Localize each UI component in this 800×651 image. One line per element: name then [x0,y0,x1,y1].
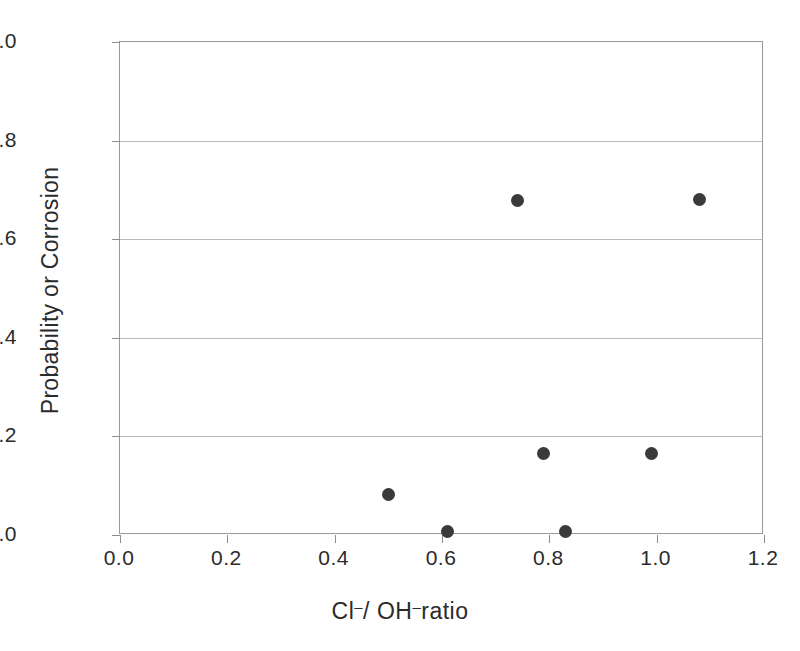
x-axis-tick-label: 0.6 [426,546,457,570]
x-axis-label-charge-1: – [354,598,363,615]
data-point [645,447,658,460]
y-axis-tick-label: 0.2 [0,423,17,447]
x-axis-tick [335,535,336,543]
x-axis-tick-label: 0.0 [104,546,135,570]
gridline [120,239,762,240]
y-axis-tick [112,535,120,536]
data-point [382,488,395,501]
x-axis-tick-label: 0.4 [318,546,349,570]
x-axis-label-charge-2: – [412,598,421,615]
y-axis-label: Probability or Corrosion [37,11,64,571]
x-axis-label-species-2: OH [377,598,413,624]
x-axis-tick-label: 0.2 [211,546,242,570]
x-axis-tick [227,535,228,543]
y-axis-tick-label: 0.4 [0,325,17,349]
y-axis-tick [112,141,120,142]
y-axis-tick [112,239,120,240]
x-axis-tick [657,535,658,543]
data-point [559,525,572,538]
x-axis-tick-label: 1.2 [748,546,779,570]
y-axis-tick-label: 0.6 [0,226,17,250]
gridline [120,436,762,437]
data-point [537,447,550,460]
y-axis-tick [112,436,120,437]
x-axis-tick [120,535,121,543]
gridline [120,338,762,339]
x-axis-tick-label: 0.8 [533,546,564,570]
y-axis-tick-label: 1.0 [0,29,17,53]
data-point [441,525,454,538]
data-point [693,193,706,206]
gridline [120,141,762,142]
y-axis-tick-label: 0.8 [0,128,17,152]
y-axis-tick [112,338,120,339]
x-axis-label-suffix: ratio [421,598,468,624]
x-axis-label: Cl–/ OH–ratio [0,598,800,625]
x-axis-label-separator: / [363,598,377,624]
data-point [511,194,524,207]
x-axis-label-species-1: Cl [332,598,355,624]
x-axis-tick [764,535,765,543]
y-axis-tick-label: 0.0 [0,522,17,546]
plot-area [119,41,763,534]
scatter-chart-figure: 0.00.20.40.60.81.01.2 0.00.20.40.60.81.0… [0,0,800,651]
x-axis-tick [549,535,550,543]
y-axis-tick [112,42,120,43]
x-axis-tick-label: 1.0 [640,546,671,570]
